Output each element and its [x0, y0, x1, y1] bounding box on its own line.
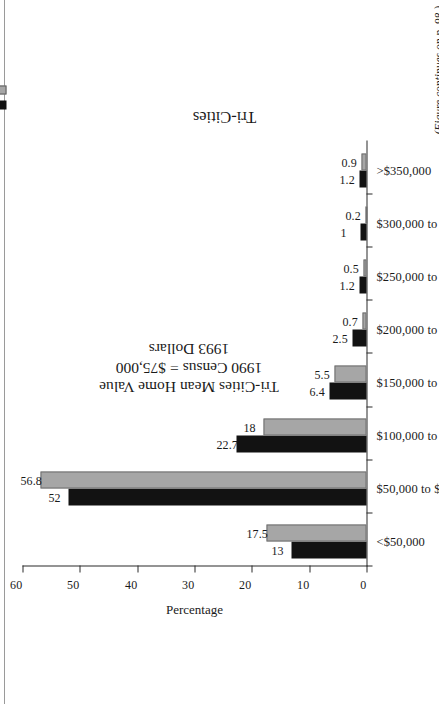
bar-whites-6	[365, 206, 367, 223]
caption-line-3: 1993 Dollars	[59, 340, 319, 359]
bar-whites-2	[263, 418, 366, 435]
legend-swatch-blacks-icon	[0, 101, 6, 110]
chart-area: 0102030405060 1317.55256.822.7186.45.52.…	[0, 0, 439, 704]
bar-blacks-3	[329, 382, 366, 399]
category-label: $100,000 to $149,999	[376, 429, 439, 442]
percentage-tick-label: 20	[211, 578, 251, 590]
bar-whites-5	[363, 259, 366, 276]
bar-blacks-7	[359, 170, 366, 187]
category-tick	[366, 246, 372, 247]
percentage-tick-label: 30	[154, 578, 194, 590]
category-tick	[366, 459, 372, 460]
caption-line-2: 1990 Census = $75,000	[59, 359, 319, 378]
percentage-tick	[251, 565, 252, 572]
bar-value-label: 13	[271, 544, 283, 556]
bar-value-label: 52	[48, 491, 60, 503]
percentage-axis-title: Percentage	[165, 601, 222, 617]
bar-blacks-0	[291, 541, 366, 558]
bar-whites-3	[334, 365, 366, 382]
bar-whites-0	[266, 524, 366, 541]
bar-blacks-5	[359, 276, 366, 293]
percentage-tick-label: 60	[0, 578, 22, 590]
percentage-tick-label: 40	[97, 578, 137, 590]
bar-whites-7	[361, 153, 366, 170]
bar-value-label: 56.8	[20, 474, 41, 486]
category-label: $250,000 to $299,999	[376, 270, 439, 283]
category-label: $300,000 to $349,999	[376, 217, 439, 230]
category-tick	[366, 193, 372, 194]
bar-value-label: 0.2	[345, 209, 360, 221]
chart-title: Tri-Cities	[192, 106, 256, 126]
bar-whites-4	[362, 312, 366, 329]
bar-value-label: 1.2	[339, 173, 354, 185]
legend-swatch-whites-icon	[0, 86, 6, 95]
caption-line-1: Tri-Cities Mean Home Value	[59, 378, 319, 397]
bar-blacks-2	[236, 435, 366, 452]
category-label: $150,000 to $199,999	[376, 376, 439, 389]
percentage-tick	[194, 565, 195, 572]
percentage-tick	[309, 565, 310, 572]
percentage-tick	[79, 565, 80, 572]
figure-caption: Tri-Cities Mean Home Value 1990 Census =…	[59, 340, 319, 397]
bar-value-label: 0.7	[342, 315, 357, 327]
bar-value-label: 0.9	[341, 156, 356, 168]
figure-continues-note: (Figure continues on p. 98.)	[433, 6, 439, 135]
legend-item-whites: Whites	[0, 83, 6, 97]
bar-value-label: 0.5	[343, 262, 358, 274]
chart-legend: Blacks Whites	[0, 82, 6, 112]
category-label: <$50,000	[376, 535, 424, 548]
percentage-tick-label: 50	[39, 578, 79, 590]
category-tick	[366, 406, 372, 407]
bar-value-label: 1.2	[339, 279, 354, 291]
bar-blacks-1	[68, 488, 366, 505]
bar-value-label: 22.7	[216, 438, 237, 450]
category-label: $200,000 to $249,999	[376, 323, 439, 336]
percentage-tick-label: 0	[326, 578, 366, 590]
percentage-tick-label: 10	[269, 578, 309, 590]
percentage-tick	[137, 565, 138, 572]
bar-value-label: 17.5	[246, 527, 267, 539]
category-tick	[366, 565, 372, 566]
bar-value-label: 2.5	[332, 332, 347, 344]
bar-whites-1	[40, 471, 366, 488]
category-label: $50,000 to $99,999	[376, 482, 439, 495]
category-tick	[366, 299, 372, 300]
percentage-tick	[22, 565, 23, 572]
rotated-figure-canvas: 0102030405060 1317.55256.822.7186.45.52.…	[0, 0, 439, 704]
bar-blacks-4	[352, 329, 366, 346]
bar-value-label: 1	[340, 226, 346, 238]
legend-item-blacks: Blacks	[0, 98, 6, 112]
bar-value-label: 18	[243, 421, 255, 433]
category-tick	[366, 512, 372, 513]
category-tick	[366, 353, 372, 354]
bar-blacks-6	[360, 223, 366, 240]
category-label: >$350,000	[376, 164, 431, 177]
